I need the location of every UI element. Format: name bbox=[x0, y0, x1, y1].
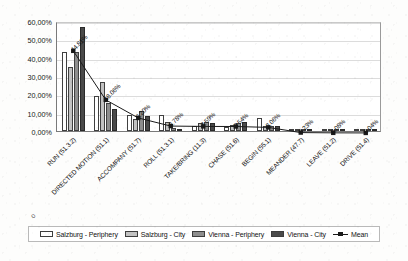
y-axis-tick-label: 60,00% bbox=[2, 18, 52, 27]
legend-item: Mean bbox=[333, 231, 368, 238]
legend-swatch bbox=[40, 231, 53, 237]
y-axis-tick-label: 50,00% bbox=[2, 36, 52, 45]
legend-item: Salzburg - Periphery bbox=[40, 231, 118, 238]
chart-legend: Salzburg - PeripherySalzburg - CityVienn… bbox=[28, 226, 380, 242]
legend-label: Vienna - Periphery bbox=[208, 231, 264, 238]
y-axis-tick-label: 30,00% bbox=[2, 73, 52, 82]
legend-item: Vienna - City bbox=[271, 231, 326, 238]
legend-swatch bbox=[192, 231, 205, 237]
chart-page: 60,00%50,00%40,00%30,00%20,00%10,00%0,00… bbox=[0, 0, 408, 261]
legend-label: Salzburg - Periphery bbox=[56, 231, 118, 238]
legend-label: Salzburg - City bbox=[141, 231, 185, 238]
y-axis-tick-label: 20,00% bbox=[2, 91, 52, 100]
legend-swatch bbox=[271, 231, 284, 237]
mean-line bbox=[73, 51, 366, 133]
plot-area: 44.81%18.06%8.20%3.78%3.59%3.54%3.06%0.2… bbox=[56, 22, 381, 132]
y-axis-tick-label: 10,00% bbox=[2, 109, 52, 118]
y-axis-tick-label: 40,00% bbox=[2, 54, 52, 63]
legend-swatch bbox=[125, 231, 138, 237]
legend-item: Salzburg - City bbox=[125, 231, 185, 238]
mean-line-series bbox=[57, 23, 382, 133]
legend-item: Vienna - Periphery bbox=[192, 231, 264, 238]
legend-label: Vienna - City bbox=[287, 231, 326, 238]
y-axis-tick-label: 0,00% bbox=[2, 128, 52, 137]
legend-label: Mean bbox=[351, 231, 368, 238]
legend-mean-marker-icon bbox=[333, 231, 348, 238]
